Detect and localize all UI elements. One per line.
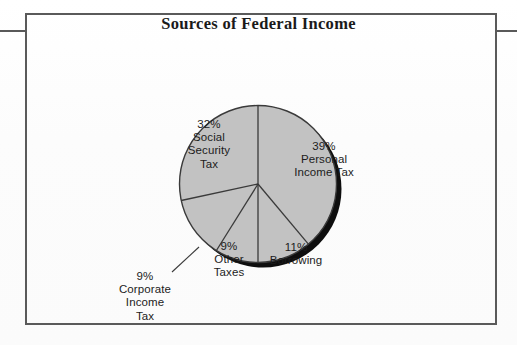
pie-label-social-security-tax: 32% Social Security Tax (167, 118, 251, 171)
pie-label-borrowing: 11% Borrowing (256, 241, 336, 267)
pie-chart: 32% Social Security Tax 39% Personal Inc… (0, 0, 517, 345)
corporate-callout-leader (172, 247, 199, 272)
pie-label-personal-income-tax: 39% Personal Income Tax (272, 140, 376, 180)
pie-label-other-taxes: 9% Other Taxes (203, 240, 255, 280)
pie-chart-svg (0, 0, 517, 345)
pie-label-corporate-income-tax: 9% Corporate Income Tax (101, 270, 189, 323)
figure-page: Sources of Federal Income (0, 0, 517, 345)
